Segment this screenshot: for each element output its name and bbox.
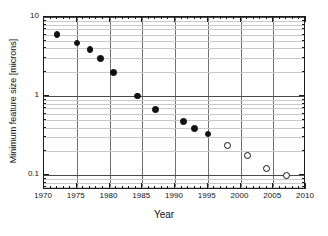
y-axis-tick	[302, 136, 305, 137]
x-axis-tick	[95, 16, 96, 19]
x-axis-tick	[266, 16, 267, 19]
gridline-minor	[44, 137, 304, 138]
x-axis-tick	[89, 186, 90, 189]
y-axis-tick	[302, 186, 305, 187]
y-axis-tick	[302, 47, 305, 48]
x-axis-tick	[220, 186, 221, 189]
y-axis-tick	[302, 182, 305, 183]
data-point-historical	[180, 118, 187, 125]
data-point-projected	[244, 152, 251, 159]
x-axis-tick	[50, 186, 51, 189]
y-axis-tick	[302, 150, 305, 151]
x-axis-tick	[76, 16, 77, 22]
x-axis-tick	[89, 16, 90, 19]
y-axis-tick	[299, 95, 305, 96]
x-axis-tick	[122, 16, 123, 19]
x-axis-tick	[109, 16, 110, 22]
x-axis-tick	[69, 186, 70, 189]
data-point-historical	[152, 106, 159, 113]
data-point-historical	[97, 55, 104, 62]
x-axis-tick	[292, 16, 293, 19]
y-axis-tick	[43, 95, 49, 96]
y-axis-tick	[43, 107, 46, 108]
data-point-historical	[54, 31, 61, 38]
x-axis-tick	[148, 16, 149, 19]
x-axis-tick-label: 2010	[285, 191, 325, 200]
x-axis-tick	[141, 16, 142, 22]
gridline-vertical	[273, 17, 274, 188]
x-axis-tick	[213, 16, 214, 19]
x-axis-tick	[220, 16, 221, 19]
x-axis-tick	[187, 16, 188, 19]
y-axis-tick-label: 1	[13, 90, 39, 99]
y-axis-tick	[43, 71, 46, 72]
x-axis-tick	[167, 16, 168, 19]
x-axis-tick	[207, 183, 208, 189]
data-point-historical	[87, 46, 94, 53]
x-axis-tick	[259, 186, 260, 189]
y-axis-tick	[43, 34, 46, 35]
x-axis-tick	[181, 186, 182, 189]
x-axis-tick	[181, 16, 182, 19]
y-axis-tick	[302, 107, 305, 108]
y-axis-tick	[43, 47, 46, 48]
x-axis-tick	[246, 16, 247, 19]
x-axis-tick	[122, 186, 123, 189]
x-axis-tick	[174, 183, 175, 189]
gridline-minor	[44, 151, 304, 152]
y-axis-tick	[43, 127, 46, 128]
y-axis-tick	[43, 20, 46, 21]
x-axis-tick	[200, 16, 201, 19]
y-axis-tick	[302, 178, 305, 179]
gridline-minor	[44, 41, 304, 42]
data-point-historical	[205, 131, 212, 138]
x-axis-tick	[187, 186, 188, 189]
x-axis-tick	[161, 16, 162, 19]
y-axis-tick	[302, 34, 305, 35]
y-axis-tick	[302, 20, 305, 21]
x-axis-tick	[194, 16, 195, 19]
y-axis-title: Minimum feature size [microns]	[8, 21, 18, 181]
x-axis-tick	[141, 183, 142, 189]
gridline-minor	[44, 72, 304, 73]
x-axis-tick	[240, 16, 241, 22]
gridline-vertical	[241, 17, 242, 188]
x-axis-tick	[76, 183, 77, 189]
gridline-minor	[44, 29, 304, 30]
y-axis-tick	[302, 71, 305, 72]
x-axis-tick	[253, 186, 254, 189]
y-axis-tick	[302, 119, 305, 120]
x-axis-tick	[266, 186, 267, 189]
gridline-minor	[44, 100, 304, 101]
y-axis-tick	[302, 113, 305, 114]
x-axis-tick	[194, 186, 195, 189]
x-axis-tick	[128, 16, 129, 19]
x-axis-tick	[82, 186, 83, 189]
x-axis-tick	[56, 186, 57, 189]
x-axis-tick	[135, 186, 136, 189]
gridline-vertical	[142, 17, 143, 188]
data-point-projected	[283, 172, 290, 179]
y-axis-tick	[302, 28, 305, 29]
x-axis-tick	[63, 16, 64, 19]
x-axis-tick	[128, 186, 129, 189]
y-axis-tick	[43, 24, 46, 25]
y-axis-tick	[302, 127, 305, 128]
x-axis-tick	[292, 186, 293, 189]
x-axis-tick	[50, 16, 51, 19]
x-axis-tick	[135, 16, 136, 19]
gridline-minor	[44, 114, 304, 115]
x-axis-tick	[95, 186, 96, 189]
x-axis-tick	[102, 16, 103, 19]
x-axis-tick	[207, 16, 208, 22]
y-axis-tick	[43, 28, 46, 29]
data-point-historical	[134, 93, 141, 100]
data-point-historical	[110, 69, 117, 76]
x-axis-title: Year	[0, 209, 328, 220]
y-axis-tick	[299, 16, 305, 17]
data-point-historical	[191, 125, 198, 132]
chart-figure: Year Minimum feature size [microns] 1970…	[0, 0, 328, 236]
x-axis-tick	[174, 16, 175, 22]
gridline-minor	[44, 108, 304, 109]
gridline-minor	[44, 128, 304, 129]
